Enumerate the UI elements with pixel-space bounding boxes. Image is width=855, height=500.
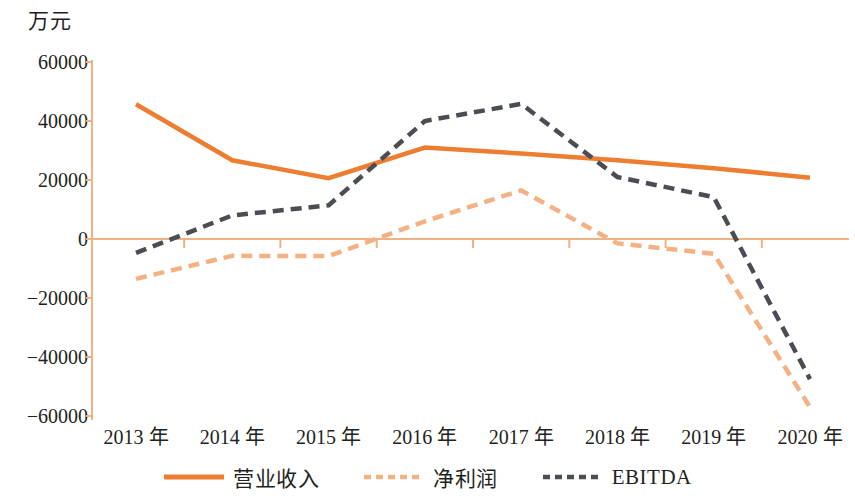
legend-label: 净利润 xyxy=(433,462,498,492)
x-tick-label-2016: 2016 年 xyxy=(392,421,457,450)
legend-item[interactable]: 营业收入 xyxy=(163,462,319,492)
x-tick-label-2017: 2017 年 xyxy=(489,421,554,450)
x-tick-label-2019: 2019 年 xyxy=(681,421,746,450)
x-tick-label-2018: 2018 年 xyxy=(585,421,650,450)
series-line-revenue xyxy=(136,104,810,178)
x-tick-label-2013: 2013 年 xyxy=(104,421,169,450)
legend-item[interactable]: 净利润 xyxy=(363,462,498,492)
series-line-net-profit xyxy=(136,190,810,407)
data-series-group xyxy=(136,104,810,407)
x-axis-ticks xyxy=(184,239,762,248)
legend-label: 营业收入 xyxy=(233,462,319,492)
x-tick-label-2020: 2020 年 xyxy=(778,421,843,450)
legend-swatch-ebitda xyxy=(542,470,604,484)
x-tick-label-2015: 2015 年 xyxy=(296,421,361,450)
legend-item[interactable]: EBITDA xyxy=(542,465,692,490)
legend-swatch-net-profit xyxy=(363,470,425,484)
legend-label: EBITDA xyxy=(612,465,692,490)
chart-legend: 营业收入净利润EBITDA xyxy=(0,462,855,492)
legend-swatch-revenue xyxy=(163,470,225,484)
line-chart: 万元 60000 40000 20000 0 −20000 −40000 −60… xyxy=(0,0,855,500)
x-tick-label-2014: 2014 年 xyxy=(200,421,265,450)
